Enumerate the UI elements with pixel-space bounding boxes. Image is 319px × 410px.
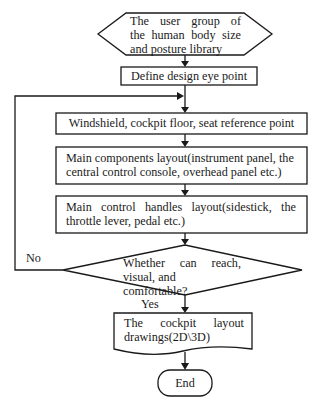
- start-line-3: and posture library: [130, 42, 241, 56]
- arrowhead-icon: [181, 239, 189, 245]
- end-label: End: [158, 376, 212, 390]
- output-line-2: drawings(2D\3D): [124, 330, 244, 344]
- step2-label: Windshield, cockpit floor, seat referenc…: [56, 116, 307, 130]
- output-line-1: The cockpit layout: [124, 316, 244, 330]
- step4-line-1: Main control handles layout(sidestick, t…: [66, 200, 296, 214]
- step4-line-2: throttle lever, pedal etc.): [66, 214, 296, 228]
- arrowhead-icon: [181, 307, 189, 313]
- arrowhead-icon: [181, 107, 189, 113]
- arrowhead-icon: [177, 92, 184, 100]
- yes-label: Yes: [141, 297, 159, 311]
- start-line-1: The user group of: [130, 14, 241, 28]
- arrowhead-icon: [181, 190, 189, 196]
- step3-line-1: Main components layout(instrument panel,…: [66, 151, 298, 165]
- arrowhead-icon: [181, 363, 189, 370]
- arrowhead-icon: [181, 141, 189, 147]
- start-line-2: the human body size: [130, 28, 241, 42]
- step3-text: Main components layout(instrument panel,…: [66, 151, 298, 179]
- output-text: The cockpit layout drawings(2D\3D): [124, 316, 244, 344]
- no-label: No: [26, 251, 41, 265]
- step4-text: Main control handles layout(sidestick, t…: [66, 200, 296, 228]
- decision-text: Whether can reach, visual, and comfortab…: [123, 256, 241, 298]
- step3-line-2: central control console, overhead panel …: [66, 165, 298, 179]
- start-node-text: The user group of the human body size an…: [130, 14, 241, 56]
- decision-line-2: visual, and comfortable?: [123, 270, 241, 298]
- arrowhead-icon: [181, 61, 189, 67]
- step1-label: Define design eye point: [121, 69, 257, 83]
- decision-line-1: Whether can reach,: [123, 256, 241, 270]
